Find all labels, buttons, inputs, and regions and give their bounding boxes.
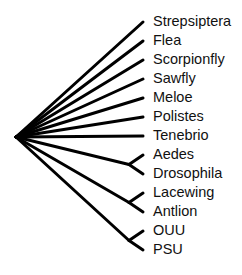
taxon-label-psu: PSU	[153, 241, 183, 257]
branch-meloe	[16, 98, 143, 137]
taxon-label-ouu: OUU	[153, 222, 185, 238]
taxon-label-polistes: Polistes	[153, 108, 204, 124]
taxon-label-aedes: Aedes	[153, 146, 194, 162]
branch-lacewing	[129, 193, 143, 203]
taxon-label-flea: Flea	[153, 32, 182, 48]
branch-tenebrio	[16, 136, 143, 137]
branch-antlion	[129, 203, 143, 213]
taxon-label-meloe: Meloe	[153, 89, 193, 105]
tree-branches	[16, 22, 143, 250]
branch-ouu	[129, 231, 143, 241]
taxon-label-scorpionfly: Scorpionfly	[153, 51, 225, 67]
taxon-label-antlion: Antlion	[153, 203, 197, 219]
taxon-label-tenebrio: Tenebrio	[153, 127, 209, 143]
taxon-label-sawfly: Sawfly	[153, 70, 196, 86]
taxon-label-lacewing: Lacewing	[153, 184, 214, 200]
branch-clade-lacewing-antlion	[16, 137, 129, 203]
taxon-labels: StrepsipteraFleaScorpionflySawflyMeloePo…	[153, 13, 232, 257]
branch-clade-ouu-psu	[16, 137, 129, 241]
taxon-label-drosophila: Drosophila	[153, 165, 223, 181]
branch-drosophila	[129, 165, 143, 175]
branch-scorpionfly	[16, 60, 143, 137]
taxon-label-strepsiptera: Strepsiptera	[153, 13, 232, 29]
branch-psu	[129, 241, 143, 251]
branch-aedes	[129, 155, 143, 165]
phylogenetic-tree: StrepsipteraFleaScorpionflySawflyMeloePo…	[0, 0, 242, 275]
